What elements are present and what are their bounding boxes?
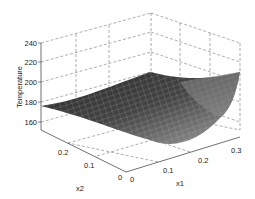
x1-tick-label: 0.2 <box>198 156 208 165</box>
surface <box>41 72 240 144</box>
x1-tick-label: 0.1 <box>163 166 173 175</box>
x1-axis-label: x1 <box>176 179 184 188</box>
z-tick-label: 200 <box>24 78 37 87</box>
x1-tick-label: 0.3 <box>231 146 241 155</box>
z-tick-label: 220 <box>24 58 37 67</box>
x1-axis-ticks: 0 0.1 0.2 0.3 <box>130 146 241 184</box>
x1-axis <box>126 137 240 172</box>
x2-tick-label: 0.1 <box>84 161 94 170</box>
z-tick-label: 180 <box>24 98 37 107</box>
z-tick-label: 240 <box>24 39 37 48</box>
surface-plot: 240 220 200 180 160 0.2 0.1 0 0 0.1 0.2 … <box>0 0 255 199</box>
x2-tick-label: 0 <box>118 173 122 182</box>
x1-tick-label: 0 <box>130 175 134 184</box>
z-axis-ticks: 240 220 200 180 160 <box>24 39 41 127</box>
z-tick-label: 160 <box>24 118 37 127</box>
z-axis-label: Temperature <box>15 66 24 108</box>
x2-axis-label: x2 <box>76 184 84 193</box>
x2-tick-label: 0.2 <box>58 148 68 157</box>
